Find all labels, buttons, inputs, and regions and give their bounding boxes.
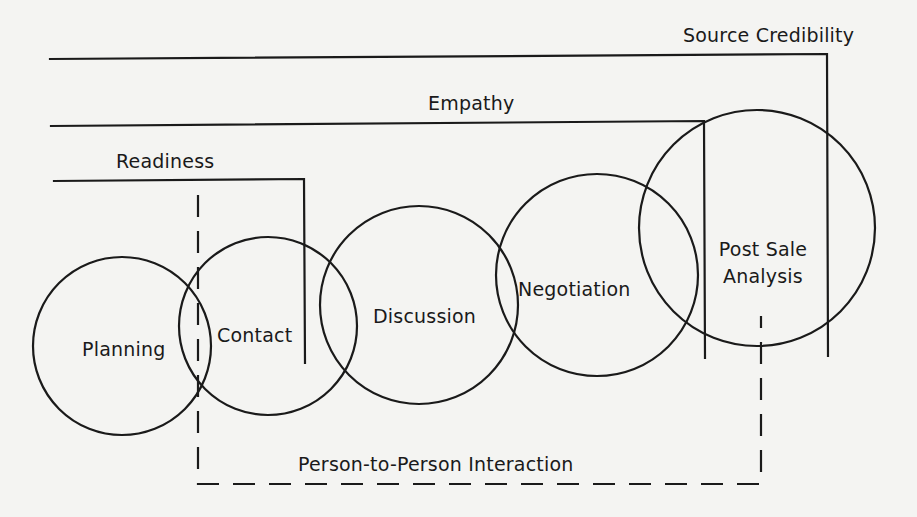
negotiation-label: Negotiation	[518, 280, 631, 299]
negotiation-circle	[496, 174, 698, 376]
post-sale-analysis-label-line1: Post Sale	[719, 240, 807, 259]
sales-process-diagram: Source Credibility Empathy Readiness Per…	[0, 0, 917, 517]
person-to-person-label: Person-to-Person Interaction	[298, 455, 574, 474]
discussion-label: Discussion	[373, 307, 476, 326]
readiness-label: Readiness	[116, 152, 214, 171]
post-sale-analysis-circle	[639, 110, 875, 346]
contact-label: Contact	[217, 326, 292, 345]
empathy-label: Empathy	[428, 94, 514, 113]
post-sale-analysis-label-line2: Analysis	[723, 267, 803, 286]
source-credibility-label: Source Credibility	[683, 26, 854, 45]
planning-label: Planning	[82, 340, 165, 359]
